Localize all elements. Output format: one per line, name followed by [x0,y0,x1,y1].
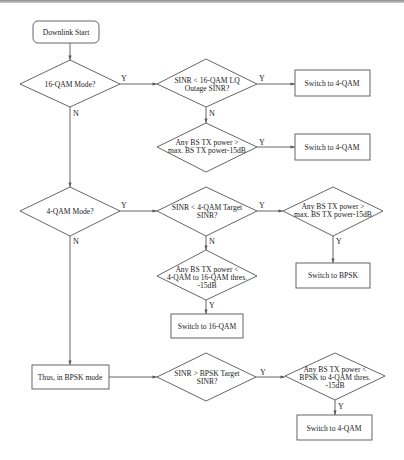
label-txmax2-yes: Y [336,237,342,246]
node-text: Switch to BPSK [308,271,358,280]
label-sinr16-yes: Y [259,74,265,83]
label-sinrbpsk-yes: Y [260,368,266,377]
label-sinr4-no: N [209,237,215,246]
node-sinr-bpsk-target-decision: SINR > BPSK Target SINR? [157,353,256,401]
node-text: Switch to 4-QAM [305,79,360,88]
node-text: max. BS TX power-15dB [168,146,246,155]
label-txbpsk-yes: Y [338,402,344,411]
node-tx-power-gt-max-decision-1: Any BS TX power > max. BS TX power-15dB [157,123,257,172]
flowchart-canvas: Y N Y N Y Y N Y N Y Y Y Y Downlink Start… [0,0,404,460]
node-text: Downlink Start [43,28,91,37]
label-q4-no: N [73,237,79,246]
node-text: 4-QAM Mode? [46,207,94,216]
label-q16-yes: Y [121,74,127,83]
node-switch-4qam-2: Switch to 4-QAM [295,134,370,160]
node-text: 16-QAM Mode? [45,80,96,89]
label-tx4to16-yes: Y [209,301,215,310]
node-downlink-start: Downlink Start [33,21,99,43]
label-q16-no: N [73,109,79,118]
label-txmax1-yes: Y [259,138,265,147]
label-sinr16-no: N [209,109,215,118]
node-tx-power-lt-bpsk-to-4qam-decision: Any BS TX power < BPSK to 4-QAM thres. -… [285,353,385,400]
node-text: Outage SINR? [185,84,230,93]
node-tx-power-lt-4qam-to-16qam-decision: Any BS TX power < 4-QAM to 16-QAM thres.… [157,250,257,300]
node-text: -15dB [198,281,217,290]
node-4qam-mode-decision: 4-QAM Mode? [20,187,120,236]
node-sinr-4qam-target-decision: SINR < 4-QAM Target SINR? [157,187,257,236]
node-text: Switch to 4-QAM [307,424,362,433]
node-text: SINR? [197,377,218,386]
node-text: SINR? [197,211,218,220]
node-bpsk-mode: Thus, in BPSK mode [32,365,109,389]
node-text: max. BS TX power-15dB [294,210,372,219]
node-text: Switch to 16-QAM [178,322,237,331]
label-q4-yes: Y [121,201,127,210]
node-switch-4qam-3: Switch to 4-QAM [297,415,372,440]
node-text: Switch to 4-QAM [305,143,360,152]
node-16qam-mode-decision: 16-QAM Mode? [20,60,120,107]
node-sinr-16qam-lq-decision: SINR < 16-QAM LQ Outage SINR? [157,59,257,107]
node-text: -15dB [326,381,345,390]
node-text: Thus, in BPSK mode [38,373,103,382]
label-sinr4-yes: Y [259,201,265,210]
node-switch-16qam: Switch to 16-QAM [171,314,243,338]
node-switch-bpsk: Switch to BPSK [296,263,370,288]
node-switch-4qam-1: Switch to 4-QAM [295,70,370,96]
node-tx-power-gt-max-decision-2: Any BS TX power > max. BS TX power-15dB [283,187,383,236]
